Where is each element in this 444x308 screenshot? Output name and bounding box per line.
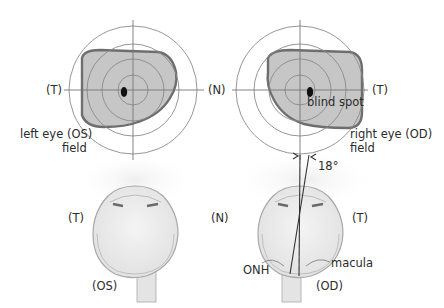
right-field-temporal-label: (T) [372,84,388,97]
macula-label: macula [331,257,373,270]
onh-label: ONH [243,264,269,277]
left-eye-temporal-label: (T) [68,212,84,225]
right-visual-field [232,20,368,160]
right-field-caption-2: field [350,142,375,155]
left-eye-label: (OS) [92,280,117,293]
right-field-caption-1: right eye (OD) [350,128,432,141]
left-field-region [82,50,176,127]
left-field-caption-2: field [62,142,87,155]
left-blind-spot [121,87,127,97]
right-eye-temporal-label: (T) [352,212,368,225]
left-field-caption-1: left eye (OS) [20,128,92,141]
visual-field-diagram: (T) (N) left eye (OS) field (T) blind sp… [0,0,444,308]
blind-spot-label: blind spot [307,96,364,109]
right-eye-label: (OD) [316,280,343,293]
left-field-nasal-label: (N) [208,84,226,97]
left-field-temporal-label: (T) [46,84,62,97]
left-eye-outline [93,186,178,278]
left-eye-nasal-label: (N) [211,212,229,225]
angle-label: 18° [318,160,338,173]
